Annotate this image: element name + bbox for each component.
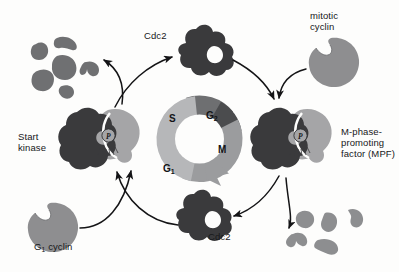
mpf-label-line3: factor (MPF) [341,148,395,159]
start-kinase-complex [58,108,139,170]
mpf-label-line2: promoting [341,137,384,148]
wheel-label-g1-text: G [163,163,171,174]
arrow-mpf-to-degraded-cyclin [286,178,291,228]
g1-cyclin-label-rest: cyclin [45,241,72,252]
mpf-phosphate-label: P [298,132,303,141]
arrow-start-kinase-to-cdc2-top [115,57,172,107]
diagram-shapes-layer [0,0,399,272]
g1-cyclin-label-sub: 1 [42,246,46,253]
degraded-cyclin-fragments-top-left [31,37,99,99]
cdc2-protein-top [178,25,234,76]
wheel-label-g2-sub: 2 [214,115,218,122]
g1-cyclin-label: G1 cyclin [34,241,73,252]
cell-cycle-diagram: S G2 M G1 P P Cdc2 Cdc2 mitoticcyclin G1… [0,0,399,272]
mitotic-cyclin-label: mitoticcyclin [310,10,338,32]
g1-cyclin-label-text: G [34,241,42,252]
mitotic-cyclin-shape [309,38,359,87]
mpf-label-line1: M-phase- [341,126,382,137]
start-kinase-label: Startkinase [18,131,46,153]
wheel-label-g2: G2 [206,110,218,121]
mpf-label: M-phase-promotingfactor (MPF) [341,126,395,160]
cdc2-bottom-label: Cdc2 [208,231,231,242]
arrow-mpf-to-cdc2-bottom [234,176,279,216]
cdc2-top-label: Cdc2 [144,30,167,41]
arrow-g1-cyclin-to-start-kinase [80,171,131,228]
arrow-cdc2-top-to-mpf [233,60,274,99]
cell-cycle-wheel [152,85,257,192]
wheel-label-s: S [169,113,176,124]
wheel-label-g1-sub: 1 [171,168,175,175]
start-kinase-label-line2: kinase [18,142,46,153]
mitotic-cyclin-label-line1: mitotic [310,10,338,21]
wheel-label-g1: G1 [163,163,175,174]
start-kinase-phosphate-label: P [106,132,111,141]
arrow-cdc2-bottom-to-start-kinase [117,172,178,225]
mitotic-cyclin-label-line2: cyclin [310,21,334,32]
degraded-cyclin-fragments-bottom-right [286,209,363,255]
wheel-label-m: M [218,144,226,155]
arrow-mitotic-cyclin-to-mpf [279,69,306,98]
start-kinase-label-line1: Start [18,131,39,142]
mpf-complex [250,108,331,170]
wheel-label-g2-text: G [206,110,214,121]
